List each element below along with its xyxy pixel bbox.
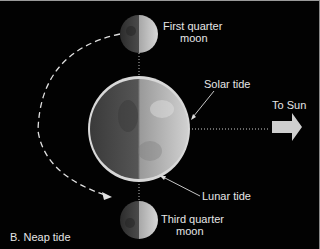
diagram-graphics: [0, 1, 320, 249]
first-quarter-label-line1: First quarter: [163, 21, 222, 32]
lunar-tide-label: Lunar tide: [202, 191, 251, 202]
to-sun-label: To Sun: [272, 100, 306, 111]
first-quarter-label-line2: moon: [180, 33, 208, 44]
lunar-tide-pointer: [163, 177, 200, 196]
solar-tide-pointer: [193, 91, 214, 117]
third-quarter-label-line2: moon: [176, 226, 204, 237]
third-quarter-moon: [120, 201, 158, 239]
first-quarter-moon: [120, 15, 158, 53]
third-quarter-label-line1: Third quarter: [161, 214, 224, 225]
neap-tide-diagram: First quarter moon Solar tide To Sun Lun…: [0, 0, 320, 249]
earth: [88, 76, 190, 182]
solar-tide-label: Solar tide: [204, 79, 250, 90]
panel-label: B. Neap tide: [10, 232, 71, 243]
to-sun-arrow: [272, 113, 302, 141]
